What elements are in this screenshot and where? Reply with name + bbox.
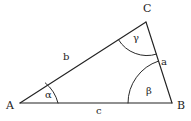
vertex-label-a: A	[6, 100, 14, 111]
angle-label-alpha: α	[45, 90, 52, 100]
vertex-label-b: B	[177, 100, 185, 111]
angle-label-gamma: γ	[133, 33, 139, 43]
angle-arc-beta	[128, 61, 158, 103]
side-label-b: b	[63, 52, 69, 62]
side-b-line	[20, 22, 146, 103]
vertex-label-c: C	[143, 3, 151, 14]
triangle-diagram: A B C b a c α β γ	[0, 0, 191, 121]
angle-label-beta: β	[146, 86, 152, 96]
side-label-c: c	[96, 106, 102, 116]
side-label-a: a	[161, 57, 167, 67]
